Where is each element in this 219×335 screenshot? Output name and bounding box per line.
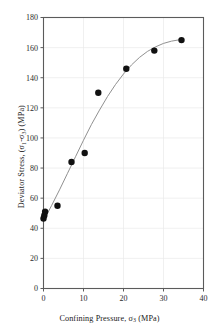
svg-text:30: 30: [160, 294, 168, 303]
svg-text:160: 160: [26, 44, 38, 53]
data-point-markers: [40, 37, 184, 222]
svg-text:80: 80: [30, 164, 38, 173]
svg-text:10: 10: [80, 294, 88, 303]
x-axis-title: Confining Pressure, σ3 (MPa): [0, 314, 219, 323]
svg-text:40: 40: [30, 224, 38, 233]
x-axis-title-suffix: (MPa): [136, 314, 160, 323]
y-axis-title-sub1: 1: [21, 142, 27, 145]
tick-marks: [41, 18, 204, 292]
svg-text:180: 180: [26, 13, 38, 22]
y-axis-title-prefix: Deviator Stress, (σ: [17, 145, 26, 208]
grid-lines: [44, 18, 204, 289]
svg-text:100: 100: [26, 134, 38, 143]
svg-text:0: 0: [42, 294, 46, 303]
x-axis-title-prefix: Confining Pressure, σ: [59, 314, 133, 323]
scatter-plot-canvas: 020406080100120140160180 010203040: [0, 0, 219, 335]
svg-text:0: 0: [34, 284, 38, 293]
svg-text:120: 120: [26, 104, 38, 113]
svg-text:20: 20: [120, 294, 128, 303]
chart-figure: 020406080100120140160180 010203040 Devia…: [0, 0, 219, 335]
svg-text:60: 60: [30, 194, 38, 203]
svg-text:40: 40: [200, 294, 208, 303]
y-axis-title-suffix: ) (MPa): [17, 105, 26, 131]
fitted-curve: [44, 39, 184, 220]
y-axis-title-sub2: 3: [21, 131, 27, 134]
x-axis-tick-labels: 010203040: [42, 294, 208, 303]
svg-text:20: 20: [30, 254, 38, 263]
y-axis-title: Deviator Stress, (σ1-σ3) (MPa): [17, 57, 26, 257]
y-axis-tick-labels: 020406080100120140160180: [26, 13, 38, 293]
y-axis-title-mid: -σ: [17, 134, 26, 141]
svg-text:140: 140: [26, 74, 38, 83]
